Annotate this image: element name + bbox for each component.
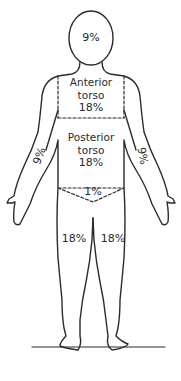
right-leg-percent-label: 18%	[99, 233, 127, 245]
right-inner-arm	[124, 110, 136, 150]
perineum-percent-label: 1%	[82, 186, 104, 198]
head-percent-label: 9%	[78, 32, 104, 44]
anterior-torso-name-line1: Anterior	[62, 76, 120, 88]
posterior-torso-percent-label: 18%	[62, 157, 120, 169]
posterior-torso-name-line1: Posterior	[62, 131, 120, 143]
posterior-torso-name-line2: torso	[62, 144, 120, 156]
anterior-torso-percent-label: 18%	[62, 102, 120, 114]
left-leg-percent-label: 18%	[60, 233, 88, 245]
anterior-torso-name-line2: torso	[62, 89, 120, 101]
left-inner-arm	[46, 110, 58, 150]
